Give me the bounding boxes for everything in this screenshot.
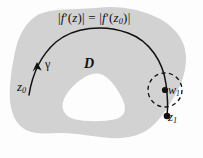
equals-glyph: = bbox=[88, 10, 96, 25]
abs-bar-right-close: | bbox=[128, 10, 131, 25]
point-label-w1-base: w bbox=[168, 83, 176, 97]
point-label-w1: w1 bbox=[168, 84, 180, 97]
modulus-equation-label: |f′(z)| = |f′(z0)| bbox=[58, 11, 130, 26]
domain-label-D: D bbox=[84, 57, 94, 71]
region-D-shape bbox=[10, 7, 186, 138]
region-group bbox=[10, 7, 186, 138]
point-label-z0: z0 bbox=[17, 80, 26, 95]
curve-label-gamma: γ bbox=[45, 58, 50, 70]
complex-analysis-figure: |f′(z)| = |f′(z0)| D γ z0 w1 z1 bbox=[0, 0, 203, 158]
point-label-z0-subscript: 0 bbox=[22, 86, 26, 95]
point-label-w1-subscript: 1 bbox=[176, 89, 180, 98]
point-label-z1: z1 bbox=[168, 110, 177, 125]
point-label-z1-subscript: 1 bbox=[173, 116, 177, 125]
